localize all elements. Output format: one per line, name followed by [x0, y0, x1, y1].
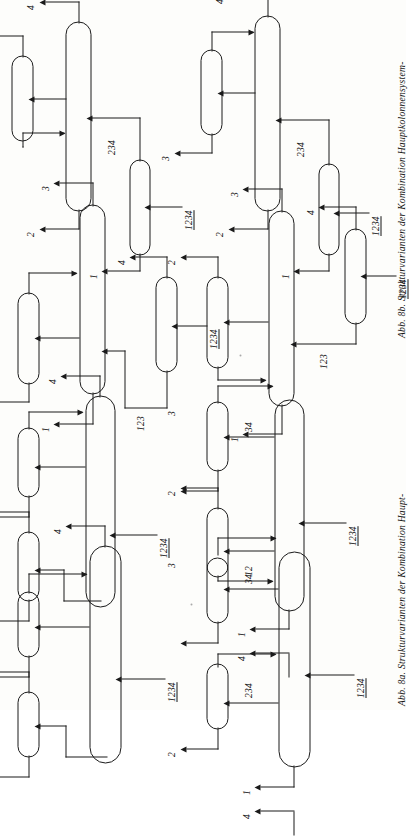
stream-label-4: 4: [242, 814, 252, 819]
stream-label-4: 4: [26, 5, 36, 10]
stream-label-2: 2: [167, 752, 177, 757]
stream-label-34: 34: [244, 422, 254, 432]
stream-label-feed: 1234: [356, 678, 366, 698]
stream-label-3: 3: [230, 192, 240, 197]
scan-speck: [190, 604, 192, 606]
stream-label-234: 234: [244, 683, 254, 698]
stream-label-34: 34: [244, 574, 254, 584]
stream-label-4: 4: [48, 379, 58, 384]
figure-caption-8b: Abb. 8b. Strukturvarianten der Kombinati…: [396, 61, 407, 338]
stream-label-3: 3: [167, 563, 177, 568]
stream-label-1: 1: [242, 790, 252, 795]
figure-caption-8a: Abb. 8a. Strukturvarianten der Kombinati…: [396, 494, 407, 706]
stream-label-2: 2: [167, 260, 177, 265]
column-main: [89, 546, 121, 764]
column-main: [278, 552, 310, 768]
stream-label-4: 4: [53, 529, 63, 534]
stream-label-3: 3: [167, 411, 177, 416]
stream-label-4: 4: [215, 0, 225, 4]
column-top-a: [206, 664, 228, 730]
figure-bottom-far-right: 1234 1 4 234 2 34: [119, 552, 413, 747]
stream-label-4: 4: [306, 210, 316, 215]
stream-label-3: 3: [41, 186, 51, 191]
